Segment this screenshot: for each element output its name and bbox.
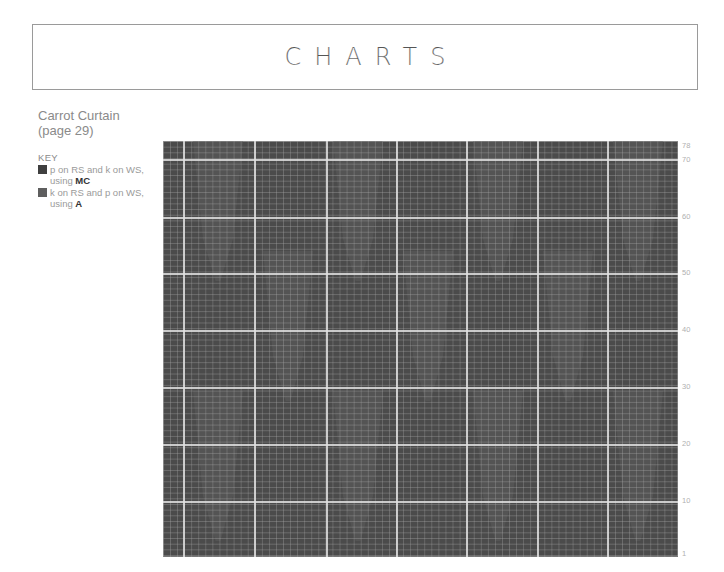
major-gridline-vertical	[466, 141, 468, 557]
row-number-label: 30	[682, 383, 690, 391]
major-gridline-vertical	[537, 141, 539, 557]
major-gridline-vertical	[607, 141, 609, 557]
chart-caption: Carrot Curtain (page 29) KEY p on RS and…	[38, 108, 153, 209]
major-gridline-horizontal	[163, 330, 678, 332]
swatch-a-icon	[38, 188, 47, 197]
key-text-mc: p on RS and k on WS, using MC	[50, 164, 153, 186]
major-gridline-vertical	[326, 141, 328, 557]
major-gridline-vertical	[254, 141, 256, 557]
major-gridline-horizontal	[163, 217, 678, 219]
section-header: CHARTS	[32, 24, 698, 90]
major-gridline-horizontal	[163, 159, 678, 161]
knitting-chart	[163, 141, 678, 557]
row-number-label: 10	[682, 497, 690, 505]
row-number-label: 1	[682, 550, 686, 558]
key-heading: KEY	[38, 152, 153, 163]
chart-name: Carrot Curtain	[38, 108, 153, 123]
major-gridline-vertical	[396, 141, 398, 557]
row-number-label: 50	[682, 269, 690, 277]
major-gridline-vertical	[183, 141, 185, 557]
major-gridline-horizontal	[163, 444, 678, 446]
key-item-mc: p on RS and k on WS, using MC	[38, 164, 153, 186]
row-number-label: 40	[682, 326, 690, 334]
key-text-a: k on RS and p on WS, using A	[50, 187, 153, 209]
row-number-label: 70	[682, 156, 690, 164]
section-title: CHARTS	[271, 43, 458, 71]
row-number-label: 20	[682, 440, 690, 448]
row-number-label: 78	[682, 142, 690, 150]
swatch-mc-icon	[38, 165, 47, 174]
major-gridline-horizontal	[163, 387, 678, 389]
row-number-label: 60	[682, 213, 690, 221]
chart-page-ref: (page 29)	[38, 123, 153, 138]
key-item-a: k on RS and p on WS, using A	[38, 187, 153, 209]
chart-minor-grid	[163, 141, 678, 557]
major-gridline-horizontal	[163, 273, 678, 275]
major-gridline-horizontal	[163, 501, 678, 503]
